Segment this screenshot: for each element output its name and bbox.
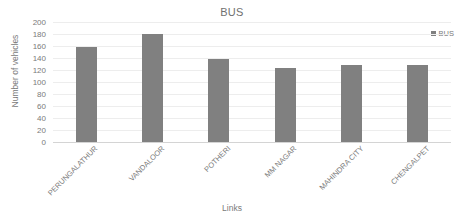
gridline [53, 82, 451, 83]
y-axis-tick-label: 100 [0, 78, 49, 87]
y-axis-tick-label: 20 [0, 126, 49, 135]
x-axis-category-label: POTHERI [202, 144, 232, 174]
y-axis-tick-label: 120 [0, 66, 49, 75]
gridline [53, 118, 451, 119]
bar [142, 34, 163, 142]
gridline [53, 130, 451, 131]
y-axis-tick-labels: 200180160140120100806040200 [0, 22, 49, 142]
bar [407, 65, 428, 142]
x-axis-category-labels: PERUNGALATHURVANDALOORPOTHERIMM NAGARMAH… [53, 144, 451, 196]
x-axis-category-label: CHENGALPET [389, 144, 431, 186]
gridline [53, 142, 451, 143]
y-axis-tick-label: 0 [0, 138, 49, 147]
gridline [53, 106, 451, 107]
bar [208, 59, 229, 142]
x-axis-title: Links [0, 203, 464, 213]
x-axis-category-label: MM NAGAR [263, 144, 299, 180]
y-axis-tick-label: 200 [0, 18, 49, 27]
gridline [53, 46, 451, 47]
bus-bar-chart: BUS BUS Number of vehicles 2001801601401… [0, 0, 464, 223]
gridline [53, 22, 451, 23]
y-axis-tick-label: 40 [0, 114, 49, 123]
y-axis-tick-label: 140 [0, 54, 49, 63]
bar [341, 65, 362, 142]
gridline [53, 58, 451, 59]
y-axis-tick-label: 80 [0, 90, 49, 99]
x-axis-category-label: MAHINDRA CITY [317, 144, 365, 192]
y-axis-tick-label: 160 [0, 42, 49, 51]
bar [76, 47, 97, 142]
gridline [53, 94, 451, 95]
x-axis-category-label: VANDALOOR [127, 144, 166, 183]
x-axis-category-label: PERUNGALATHUR [46, 144, 99, 197]
plot-area [53, 22, 451, 142]
bar [275, 68, 296, 142]
gridline [53, 34, 451, 35]
y-axis-tick-label: 180 [0, 30, 49, 39]
y-axis-tick-label: 60 [0, 102, 49, 111]
gridline [53, 70, 451, 71]
chart-title: BUS [0, 6, 464, 18]
